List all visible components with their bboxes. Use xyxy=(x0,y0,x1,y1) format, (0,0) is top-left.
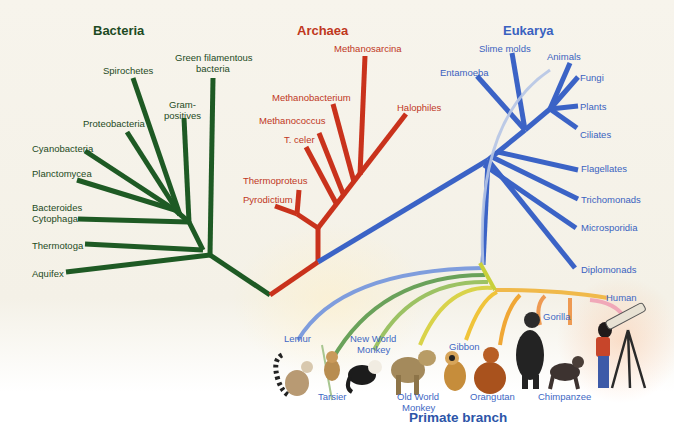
new-world-monkey-illustration xyxy=(348,360,382,392)
tree-of-life-diagram: Bacteria Archaea Eukarya Green filamento… xyxy=(0,0,674,426)
primate-illustrations xyxy=(0,0,674,426)
lemur-illustration xyxy=(276,355,313,396)
label-gibbon: Gibbon xyxy=(449,341,480,352)
label-tarsier: Tarsier xyxy=(318,391,347,402)
label-human: Human xyxy=(606,292,637,303)
label-chimpanzee: Chimpanzee xyxy=(538,391,591,402)
primate-branch-title: Primate branch xyxy=(409,410,507,425)
label-old-world-monkey-1: Old World xyxy=(397,391,439,402)
label-gorilla: Gorilla xyxy=(543,311,570,322)
chimpanzee-illustration xyxy=(550,356,584,389)
label-new-world-monkey-1: New World xyxy=(350,333,396,344)
orangutan-illustration xyxy=(474,347,506,394)
gorilla-illustration xyxy=(516,312,544,389)
label-lemur: Lemur xyxy=(284,333,311,344)
old-world-monkey-illustration xyxy=(391,350,436,395)
gibbon-illustration xyxy=(444,351,466,391)
label-new-world-monkey-2: Monkey xyxy=(357,344,390,355)
label-orangutan: Orangutan xyxy=(470,391,515,402)
human-illustration xyxy=(596,302,646,388)
